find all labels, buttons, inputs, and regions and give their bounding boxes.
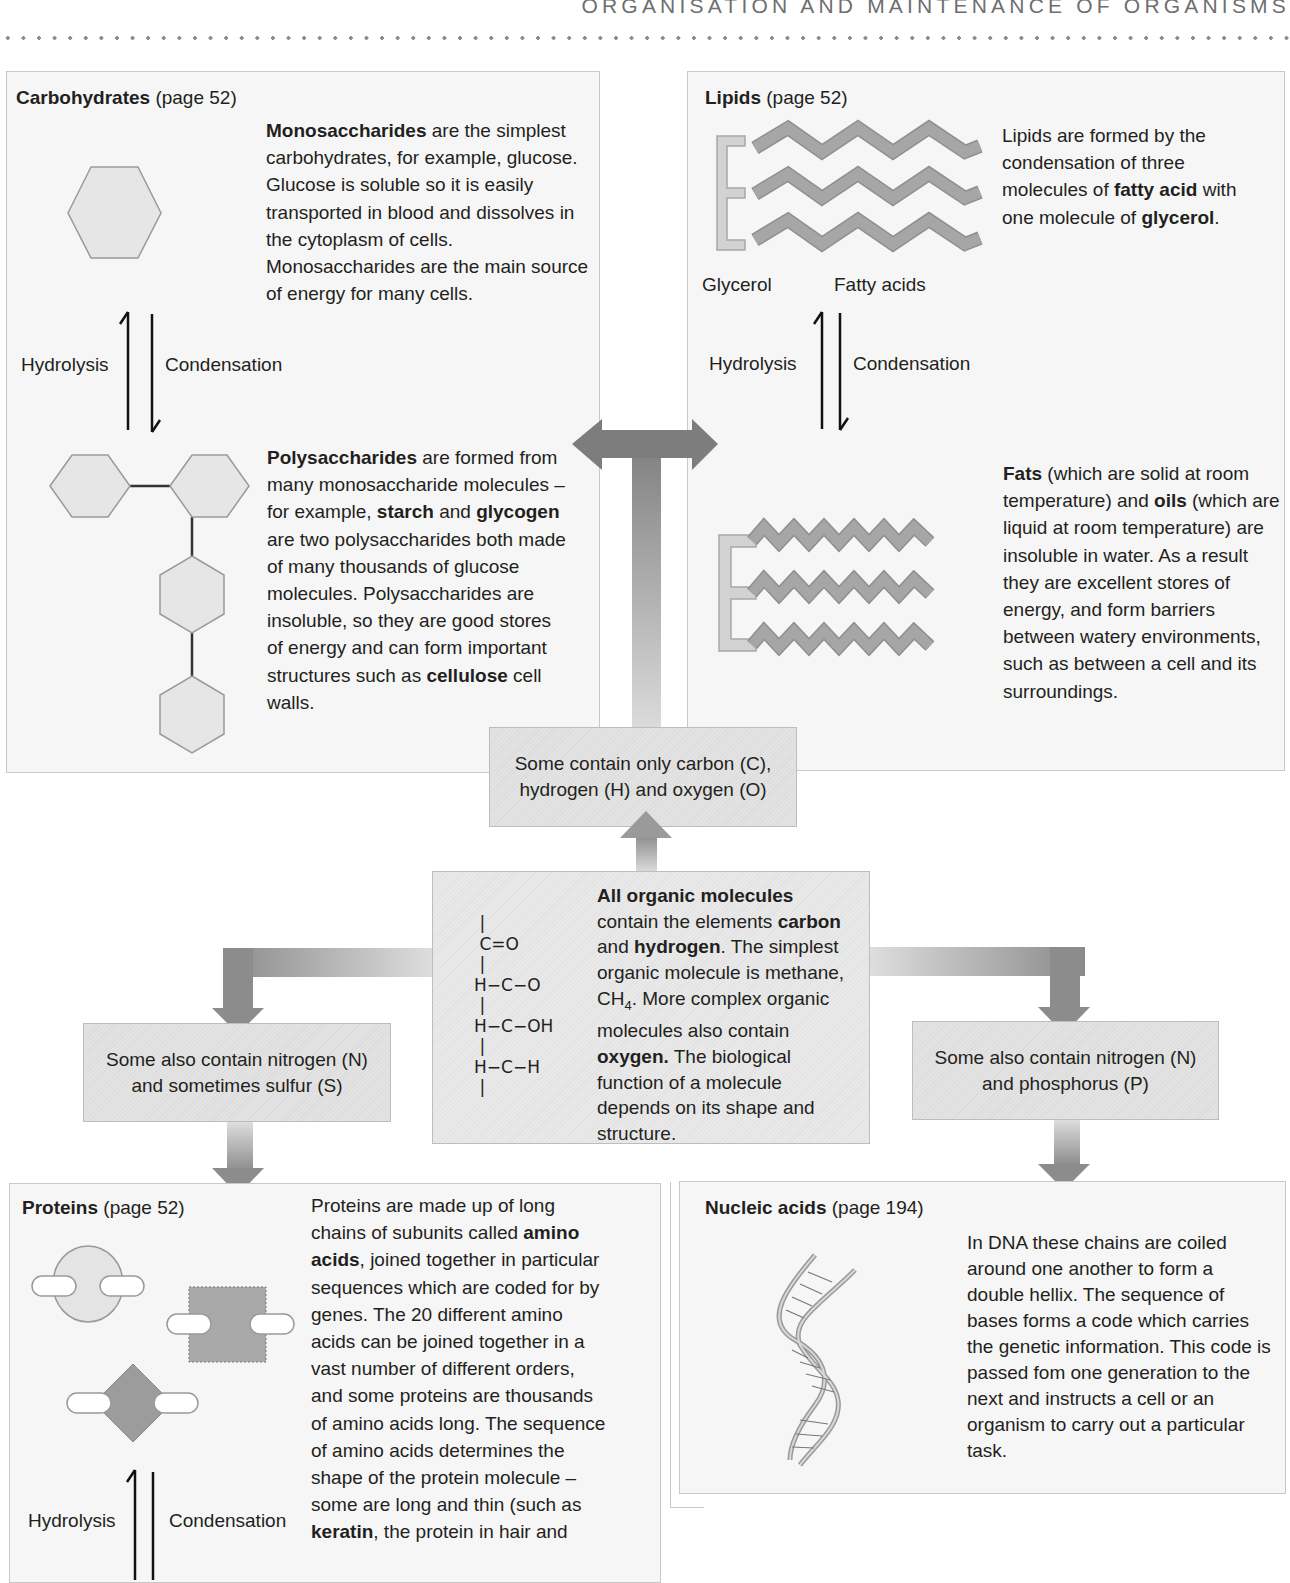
nucleic-acids-text: In DNA these chains are coiled around on…: [967, 1230, 1272, 1464]
hydrolysis-label: Hydrolysis: [28, 1510, 116, 1532]
nitrogen-phosphorus-box: Some also contain nitrogen (N) and phosp…: [912, 1021, 1219, 1120]
dna-double-helix-icon: [0, 0, 1, 1]
cho-elements-box: Some contain only carbon (C), hydrogen (…: [489, 727, 797, 827]
lipids-title: Lipids (page 52): [705, 87, 848, 109]
carbohydrates-title: Carbohydrates (page 52): [16, 87, 237, 109]
nitrogen-sulfur-box: Some also contain nitrogen (N) and somet…: [83, 1023, 391, 1122]
proteins-title: Proteins (page 52): [22, 1197, 185, 1219]
lipids-intro-text: Lipids are formed by the condensation of…: [1002, 122, 1262, 231]
condensation-label: Condensation: [853, 353, 970, 375]
polysaccharides-text: Polysaccharides are formed from many mon…: [267, 444, 567, 716]
fats-oils-text: Fats (which are solid at room temperatur…: [1003, 460, 1285, 705]
glycerol-label: Glycerol: [702, 274, 772, 296]
monosaccharides-text: Monosaccharides are the simplest carbohy…: [266, 117, 601, 307]
organic-molecules-text: All organic molecules contain the elemen…: [597, 883, 859, 1147]
structural-formula: | C=O | H−C−O | H−C−OH | H−C−H |: [474, 913, 553, 1098]
condensation-label: Condensation: [169, 1510, 286, 1532]
nucleic-acids-title: Nucleic acids (page 194): [705, 1197, 924, 1219]
fatty-acids-label: Fatty acids: [834, 274, 926, 296]
condensation-label: Condensation: [165, 354, 282, 376]
hydrolysis-label: Hydrolysis: [21, 354, 109, 376]
hydrolysis-label: Hydrolysis: [709, 353, 797, 375]
proteins-text: Proteins are made up of long chains of s…: [311, 1192, 607, 1546]
